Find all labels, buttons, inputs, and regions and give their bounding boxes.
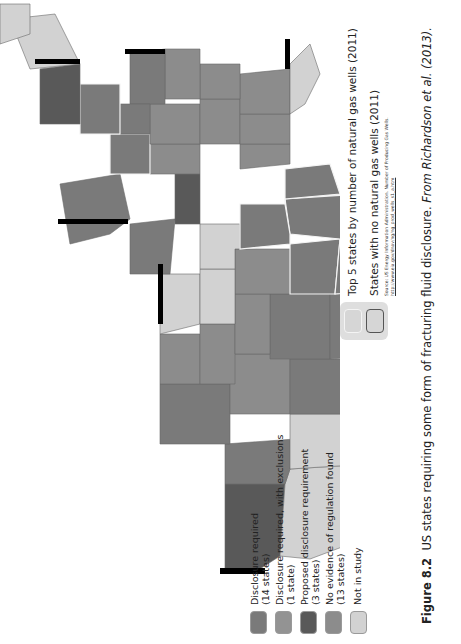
state-wyoming bbox=[230, 354, 290, 414]
state-ohio bbox=[110, 134, 150, 174]
legend-label: Disclosure required, with exclusions bbox=[275, 434, 286, 605]
state-illinois bbox=[175, 174, 200, 224]
legend-label: Not in study bbox=[353, 547, 364, 605]
legend-swatch bbox=[325, 611, 342, 634]
caption-attribution: From Richardson et al. (2013). bbox=[420, 27, 434, 203]
state-mississippi bbox=[240, 144, 290, 169]
caption-text: US states requiring some form of fractur… bbox=[420, 206, 434, 550]
state-alabama bbox=[240, 114, 290, 144]
state-new-mexico bbox=[330, 294, 340, 359]
state-oklahoma bbox=[290, 239, 340, 294]
source-link[interactable]: http://www.eia.gov/dnav/ng/ng_prod_wells… bbox=[390, 178, 395, 296]
state-kansas bbox=[235, 249, 290, 294]
figure-number: Figure 8.2 bbox=[420, 558, 434, 624]
shadow-edge bbox=[285, 39, 290, 69]
state-michigan bbox=[60, 174, 130, 244]
state-iowa bbox=[200, 269, 235, 324]
legend-label-no-wells: States with no natural gas wells (2011) bbox=[368, 90, 380, 296]
state-nebraska bbox=[235, 294, 270, 354]
figure-caption: Figure 8.2 US states requiring some form… bbox=[420, 27, 434, 624]
state-tennessee bbox=[200, 99, 240, 144]
state-indiana bbox=[150, 144, 200, 174]
legend-label: No evidence of regulation found bbox=[325, 452, 336, 605]
state-west-virginia bbox=[120, 104, 150, 134]
state-florida bbox=[290, 44, 320, 114]
legend-swatch-top5 bbox=[344, 309, 362, 333]
state-colorado bbox=[270, 294, 330, 359]
legend-swatch bbox=[275, 611, 292, 634]
legend-item-exclusions: Disclosure required, with exclusions (1 … bbox=[275, 434, 296, 634]
legend-item-required: Disclosure required (14 states) bbox=[250, 513, 271, 634]
shadow-edge bbox=[158, 264, 163, 324]
legend-count: (13 states) bbox=[336, 452, 347, 605]
state-arkansas bbox=[240, 204, 290, 249]
state-utah bbox=[290, 359, 340, 414]
state-wisconsin bbox=[130, 219, 175, 274]
legend-swatch-no-wells bbox=[366, 309, 384, 333]
legend-item-proposed: Proposed disclosure requirement (3 state… bbox=[300, 449, 321, 634]
state-north-dakota bbox=[160, 334, 200, 384]
legend-count: (3 states) bbox=[311, 449, 322, 605]
state-minnesota bbox=[160, 274, 200, 334]
legend-count: (14 states) bbox=[261, 513, 272, 605]
shadow-edge bbox=[35, 59, 80, 64]
state-new-york bbox=[40, 64, 80, 124]
state-south-carolina bbox=[200, 64, 240, 99]
state-missouri bbox=[200, 224, 240, 269]
shadow-edge bbox=[125, 49, 165, 54]
state-kentucky bbox=[150, 104, 200, 144]
legend-item-none: No evidence of regulation found (13 stat… bbox=[325, 452, 346, 634]
legend-swatch bbox=[350, 611, 367, 634]
state-georgia bbox=[240, 69, 290, 114]
legend-swatch bbox=[300, 611, 317, 634]
legend-item-not-in-study: Not in study bbox=[350, 547, 367, 634]
legend-label: Proposed disclosure requirement bbox=[300, 449, 311, 605]
state-montana bbox=[160, 384, 230, 444]
legend-count: (1 state) bbox=[286, 434, 297, 605]
state-south-dakota bbox=[200, 324, 235, 384]
legend-label-top5: Top 5 states by number of natural gas we… bbox=[346, 28, 358, 296]
state-virginia bbox=[130, 49, 165, 104]
shadow-edge bbox=[58, 219, 128, 224]
legend-label: Disclosure required bbox=[250, 513, 261, 605]
state-north-carolina bbox=[165, 49, 200, 99]
state-pennsylvania bbox=[80, 84, 120, 134]
legend-swatch bbox=[250, 611, 267, 634]
rotated-page: Disclosure required (14 states) Disclosu… bbox=[0, 0, 461, 644]
